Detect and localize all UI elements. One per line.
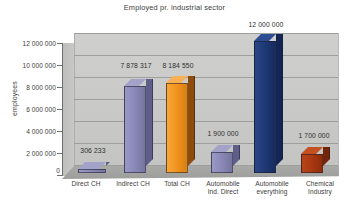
bar-value-automobile-ind-direct: 1 900 000 xyxy=(194,130,252,137)
bar-side-face xyxy=(146,79,153,166)
x-tick-label-automobile-everything: Automobile everything xyxy=(244,180,300,196)
bar-side-face xyxy=(106,162,113,166)
bar-indirect-ch[interactable] xyxy=(124,86,146,173)
x-tick-label-automobile-ind-direct: Automobile Ind. Direct xyxy=(196,180,250,196)
bar-front-face xyxy=(166,83,188,173)
bars: 306 233 7 878 317 8 184 550 1 900 000 xyxy=(0,0,349,209)
bar-chemical-industry[interactable] xyxy=(301,154,323,173)
bar-side-face xyxy=(233,145,240,166)
x-tick-label-indirect-ch: Indirect CH xyxy=(108,180,158,188)
bar-top-face xyxy=(301,147,323,154)
bar-front-face xyxy=(254,41,276,173)
x-tick-label-chemical-industry: Chemical Industry xyxy=(296,180,344,196)
bar-value-total-ch: 8 184 550 xyxy=(149,62,207,69)
bar-side-face xyxy=(323,147,330,166)
bar-value-chemical-industry: 1 700 000 xyxy=(285,132,343,139)
chart-root: Employed pr. industrial sector employees… xyxy=(0,0,349,209)
bar-top-face xyxy=(78,162,106,169)
bar-automobile-everything[interactable] xyxy=(254,41,276,173)
bar-front-face xyxy=(301,154,323,173)
x-tick-label-total-ch: Total CH xyxy=(155,180,199,188)
bar-value-automobile-everything: 12 000 000 xyxy=(235,21,297,28)
bar-top-face xyxy=(124,79,146,86)
bar-front-face xyxy=(78,169,106,173)
bar-front-face xyxy=(124,86,146,173)
bar-top-face xyxy=(254,34,276,41)
bar-automobile-ind-direct[interactable] xyxy=(211,152,233,173)
bar-front-face xyxy=(211,152,233,173)
bar-value-direct-ch: 306 233 xyxy=(68,147,118,154)
bar-side-face xyxy=(188,76,195,166)
bar-total-ch[interactable] xyxy=(166,83,188,173)
bar-side-face xyxy=(276,34,283,166)
bar-top-face xyxy=(166,76,188,83)
bar-top-face xyxy=(211,145,233,152)
bar-direct-ch[interactable] xyxy=(78,169,106,173)
x-tick-label-direct-ch: Direct CH xyxy=(62,180,110,188)
